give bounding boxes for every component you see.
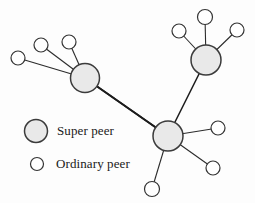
super-peer-node[interactable]	[153, 121, 183, 151]
ordinary-peer-node[interactable]	[198, 10, 213, 25]
legend-marker-group	[25, 120, 48, 171]
ordinary-peer-node[interactable]	[145, 182, 160, 197]
network-graph	[0, 0, 255, 203]
legend-ordinary-peer-label: Ordinary peer	[56, 156, 130, 172]
ordinary-peer-node[interactable]	[62, 35, 76, 49]
legend-super-peer-marker-icon	[25, 120, 48, 143]
ordinary-peer-node[interactable]	[172, 24, 186, 38]
ordinary-peer-node[interactable]	[230, 23, 244, 37]
ordinary-peer-node[interactable]	[34, 38, 48, 52]
ordinary-peer-node[interactable]	[211, 121, 225, 135]
ordinary-peer-node[interactable]	[206, 161, 220, 175]
legend-super-peer-label: Super peer	[57, 123, 114, 139]
super-peer-node[interactable]	[71, 64, 100, 93]
ordinary-peer-node[interactable]	[11, 51, 25, 65]
legend-ordinary-peer-marker-icon	[31, 158, 44, 171]
super-peer-node[interactable]	[191, 45, 221, 75]
super-peer-network-figure: Super peer Ordinary peer	[0, 0, 255, 203]
